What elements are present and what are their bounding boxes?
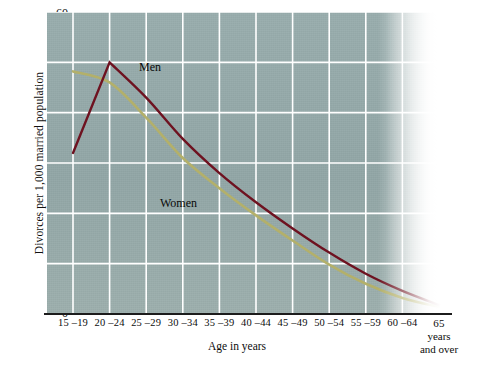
x-axis-line bbox=[44, 313, 452, 315]
series-label-men: Men bbox=[139, 60, 161, 75]
x-tick-65-and-over: and over bbox=[420, 343, 458, 356]
divorce-rate-line-chart: Divorces per 1,000 married population 60… bbox=[0, 0, 478, 366]
plot-area bbox=[47, 12, 441, 314]
x-tick-65-years: years bbox=[420, 330, 458, 343]
x-tick-6: 45 –49 bbox=[278, 317, 308, 328]
data-series-layer bbox=[47, 12, 441, 314]
x-tick-4: 35 –39 bbox=[204, 317, 234, 328]
x-tick-9: 60 –64 bbox=[387, 317, 417, 328]
x-tick-10: 65 bbox=[433, 317, 444, 329]
x-tick-8: 55 –59 bbox=[351, 317, 381, 328]
x-tick-3: 30 –34 bbox=[168, 317, 198, 328]
x-tick-2: 25 –29 bbox=[131, 317, 161, 328]
x-tick-1: 20 –24 bbox=[95, 317, 125, 328]
x-tick-7: 50 –54 bbox=[314, 317, 344, 328]
series-label-women: Women bbox=[160, 196, 197, 211]
x-tick-5: 40 –44 bbox=[241, 317, 271, 328]
x-tick-0: 15 –19 bbox=[58, 317, 88, 328]
x-tick-65-extra: years and over bbox=[420, 330, 458, 355]
series-line-women bbox=[73, 71, 439, 307]
x-axis-tick-labels: 15 –1920 –2425 –2930 –3435 –3940 –4445 –… bbox=[0, 317, 478, 333]
x-axis-title: Age in years bbox=[208, 340, 266, 352]
